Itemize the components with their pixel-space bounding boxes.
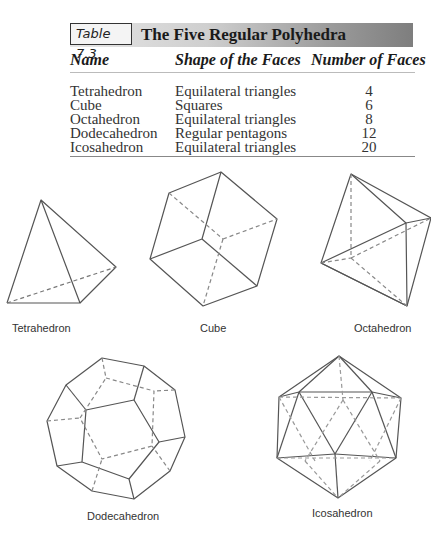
dodecahedron-figure (47, 358, 185, 499)
icosahedron-figure (277, 356, 401, 498)
caption-icosahedron: Icosahedron (312, 507, 373, 519)
caption-dodecahedron: Dodecahedron (87, 510, 159, 522)
caption-cube: Cube (200, 322, 226, 334)
cube-figure (150, 172, 277, 306)
tetrahedron-figure (7, 200, 116, 303)
caption-tetrahedron: Tetrahedron (12, 322, 71, 334)
octahedron-figure (321, 174, 431, 306)
caption-octahedron: Octahedron (354, 322, 411, 334)
polyhedra-figures (0, 0, 431, 535)
